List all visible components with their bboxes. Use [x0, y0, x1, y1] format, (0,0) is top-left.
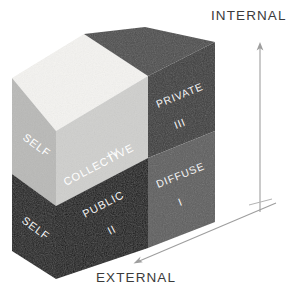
external-axis-label: EXTERNAL [96, 270, 176, 285]
internal-axis-label: INTERNAL [211, 8, 287, 23]
isometric-block-figure: SELF SELF COLLECTIVE IV PUBLIC II PRIVAT… [0, 0, 306, 291]
internal-axis [249, 42, 272, 212]
quadrant-block-diagram: SELF SELF COLLECTIVE IV PUBLIC II PRIVAT… [0, 0, 306, 291]
